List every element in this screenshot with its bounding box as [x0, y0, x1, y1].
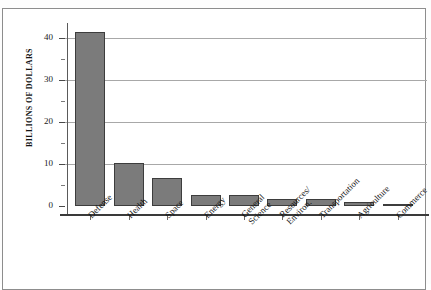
y-tick-major-10: [59, 164, 65, 165]
gridline-20: [65, 122, 427, 123]
y-tick-label-10: 10: [33, 158, 53, 168]
y-tick-major-40: [59, 38, 65, 39]
y-axis-title: BILLIONS OF DOLLARS: [25, 38, 34, 158]
y-tick-major-30: [59, 80, 65, 81]
gridline-30: [65, 80, 427, 81]
y-tick-minor-5: [61, 185, 65, 186]
gridline-40: [65, 38, 427, 39]
y-tick-label-40: 40: [33, 32, 53, 42]
bar: [75, 32, 105, 206]
y-tick-major-0: [59, 206, 65, 207]
y-tick-minor-15: [61, 143, 65, 144]
figure-border: BILLIONS OF DOLLARS 010203040 DefenseHea…: [2, 8, 426, 290]
y-tick-label-20: 20: [33, 116, 53, 126]
y-tick-major-20: [59, 122, 65, 123]
y-tick-minor-35: [61, 59, 65, 60]
y-tick-minor-25: [61, 101, 65, 102]
y-tick-label-0: 0: [33, 200, 53, 210]
y-tick-label-30: 30: [33, 74, 53, 84]
top-caption: [0, 0, 431, 7]
y-axis-line: [67, 23, 68, 215]
